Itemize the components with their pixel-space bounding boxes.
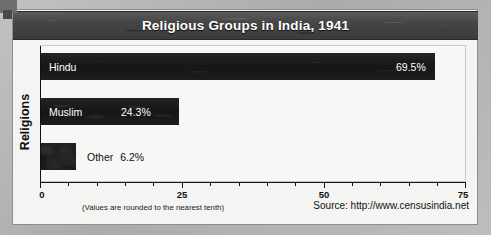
- bar-other[interactable]: [41, 143, 76, 170]
- x-axis: 0 25 50 75: [40, 182, 466, 183]
- x-tick-5: [68, 182, 69, 186]
- bar-value-hindu: 69.5%: [396, 53, 426, 80]
- x-tick-20: [153, 182, 154, 186]
- bar-label-other-group: Other 6.2%: [87, 143, 144, 170]
- bar-hindu[interactable]: [41, 53, 435, 80]
- x-tick-0: [40, 182, 41, 188]
- bar-label-muslim: Muslim: [49, 98, 82, 125]
- chart-source: Source: http://www.censusindia.net: [313, 200, 469, 211]
- x-tick-label-75: 75: [458, 189, 469, 200]
- x-tick-60: [380, 182, 381, 186]
- x-tick-55: [352, 182, 353, 186]
- chart-title: Religious Groups in India, 1941: [142, 18, 349, 33]
- chart-figure: Religious Groups in India, 1941 Religion…: [0, 0, 491, 235]
- x-tick-label-50: 50: [319, 189, 330, 200]
- x-tick-35: [239, 182, 240, 186]
- x-tick-25: [182, 182, 183, 188]
- chart-title-banner: Religious Groups in India, 1941: [13, 11, 478, 40]
- x-tick-label-0: 0: [39, 189, 44, 200]
- bar-value-muslim: 24.3%: [121, 98, 151, 125]
- x-tick-70: [437, 182, 438, 186]
- corner-artifact-inner: [3, 10, 12, 19]
- x-tick-75: [465, 182, 466, 188]
- x-tick-65: [409, 182, 410, 186]
- x-tick-15: [125, 182, 126, 186]
- bar-value-other: 6.2%: [120, 151, 144, 163]
- y-axis-title: Religions: [14, 62, 36, 182]
- x-tick-10: [97, 182, 98, 186]
- chart-footnote: (Values are rounded to the nearest tenth…: [82, 203, 224, 212]
- x-tick-40: [267, 182, 268, 186]
- x-tick-50: [324, 182, 325, 188]
- bar-label-hindu: Hindu: [49, 53, 76, 80]
- y-axis-title-label: Religions: [18, 94, 32, 150]
- plot-area: Hindu 69.5% Muslim 24.3% Other 6.2%: [40, 46, 465, 182]
- x-tick-30: [210, 182, 211, 186]
- x-tick-45: [295, 182, 296, 186]
- bar-label-other: Other: [87, 151, 113, 163]
- x-tick-label-25: 25: [177, 189, 188, 200]
